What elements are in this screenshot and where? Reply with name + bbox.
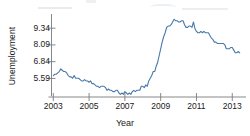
x-axis-tick-labels: 200320052007200920112013 — [0, 101, 250, 115]
x-axis-tick-label: 2007 — [115, 101, 134, 111]
y-axis-tick-label: 5.59 — [33, 74, 50, 83]
y-axis-tick-labels: 5.596.848.099.34 — [16, 0, 50, 136]
x-axis-tick-label: 2003 — [44, 101, 63, 111]
y-axis-tick-label: 8.09 — [33, 40, 50, 49]
x-axis-tick-label: 2009 — [151, 101, 170, 111]
unemployment-line-chart: 5.596.848.099.34 20032005200720092011201… — [0, 0, 250, 136]
y-axis-tick-label: 9.34 — [33, 24, 50, 33]
axes-group — [48, 14, 247, 101]
y-axis-title-text: Unemployment — [7, 27, 17, 85]
x-axis-tick-label: 2011 — [187, 101, 205, 111]
y-axis-title: Unemployment — [4, 14, 20, 98]
x-axis-tick-label: 2005 — [80, 101, 99, 111]
x-axis-title: Year — [0, 118, 250, 128]
unemployment-series-line — [53, 19, 239, 94]
y-axis-tick-label: 6.84 — [33, 57, 50, 66]
x-axis-tick-label: 2013 — [223, 101, 242, 111]
